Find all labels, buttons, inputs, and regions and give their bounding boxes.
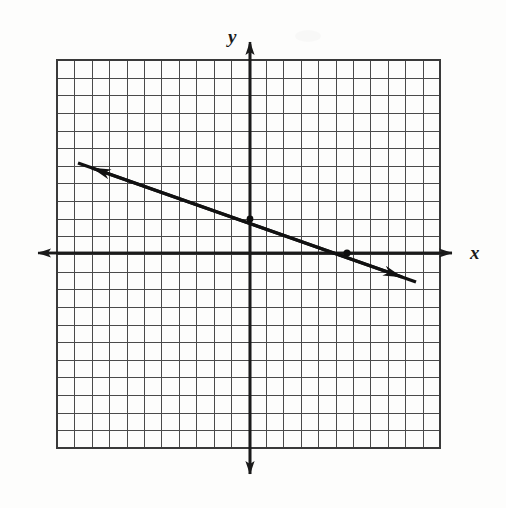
marked-point-x-intercept xyxy=(343,249,350,256)
y-axis-label: y xyxy=(228,27,236,46)
marked-point-y-intercept xyxy=(247,216,254,223)
x-axis-label: x xyxy=(470,243,480,262)
coordinate-plane-svg xyxy=(0,0,506,508)
coordinate-graph-figure: y x xyxy=(0,0,506,508)
